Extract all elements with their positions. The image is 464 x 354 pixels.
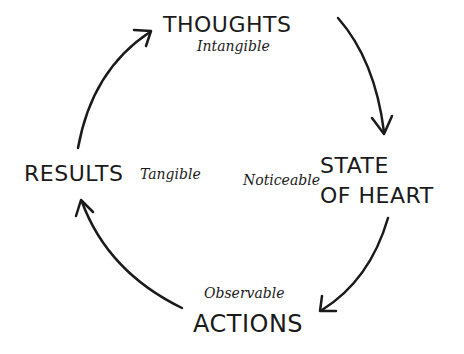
node-state-label-line1: STATE — [320, 153, 389, 179]
arrow-results-to-thoughts — [78, 32, 150, 148]
arrow-thoughts-to-state — [338, 18, 384, 132]
node-results-label: RESULTS — [24, 161, 123, 187]
node-actions-label: ACTIONS — [193, 311, 303, 337]
node-results-sub: Tangible — [140, 166, 201, 182]
node-thoughts-sub: Intangible — [197, 38, 270, 54]
node-state-sub: Noticeable — [243, 172, 320, 188]
node-actions-sub: Observable — [204, 285, 285, 301]
cycle-diagram: THOUGHTS Intangible STATE OF HEART Notic… — [0, 0, 464, 354]
node-thoughts-label: THOUGHTS — [163, 12, 291, 38]
node-state-label-line2: OF HEART — [320, 183, 434, 209]
arrow-actions-to-results — [82, 202, 182, 308]
arrow-state-to-actions — [322, 218, 388, 310]
